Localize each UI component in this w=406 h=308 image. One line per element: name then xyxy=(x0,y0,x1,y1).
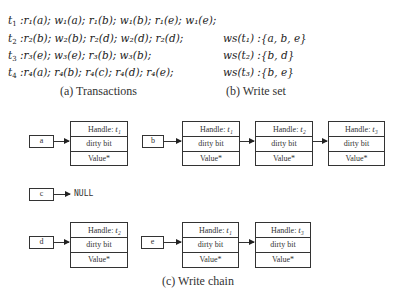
arrow-icon xyxy=(54,242,69,243)
chain-node-e-t1: Handle: t₁ dirty bit Value* xyxy=(182,222,239,268)
chain-node-b-t3: Handle: t₃ dirty bit Value* xyxy=(328,121,385,166)
chain-node-b-t2: Handle: t₂ dirty bit Value* xyxy=(255,121,313,166)
dirty-bit-row: dirty bit xyxy=(183,238,238,253)
transaction-ops: :r₃(e); w₃(e); r₃(b); w₃(b); xyxy=(17,49,152,61)
dirty-bit-row: dirty bit xyxy=(256,137,312,152)
transaction-ops: :r₄(a); r₄(b); r₄(c); r₄(d); r₄(e); xyxy=(17,66,174,78)
arrow-icon xyxy=(313,141,327,142)
chain-node-d-t2: Handle: t₂ dirty bit Value* xyxy=(70,222,128,268)
dirty-bit-row: dirty bit xyxy=(71,238,127,253)
transaction-line-t4: t4 :r₄(a); r₄(b); r₄(c); r₄(d); r₄(e); xyxy=(8,64,174,81)
handle-row: Handle: t₃ xyxy=(329,122,384,137)
key-a-box: a xyxy=(29,135,54,148)
handle-value: t₁ xyxy=(115,124,121,134)
chain-node-b-t1: Handle: t₁ dirty bit Value* xyxy=(182,121,240,166)
handle-label: Handle: xyxy=(88,125,115,134)
handle-label: Handle: xyxy=(88,226,115,235)
handle-row: Handle: t₃ xyxy=(256,223,310,238)
dirty-bit-row: dirty bit xyxy=(256,238,310,253)
handle-value: t₃ xyxy=(298,225,304,235)
handle-row: Handle: t₁ xyxy=(71,122,127,137)
value-row: Value* xyxy=(71,152,127,167)
chain-node-a-t1: Handle: t₁ dirty bit Value* xyxy=(70,121,128,166)
key-c-box: c xyxy=(29,188,54,201)
arrow-icon xyxy=(240,141,254,142)
handle-value: t₂ xyxy=(300,124,306,134)
handle-row: Handle: t₂ xyxy=(256,122,312,137)
transaction-line-t1: t1 :r₁(a); w₁(a); r₁(b); w₁(b); r₁(e); w… xyxy=(8,12,216,29)
transaction-ops: :r₁(a); w₁(a); r₁(b); w₁(b); r₁(e); w₁(e… xyxy=(17,14,217,26)
value-row: Value* xyxy=(183,152,239,167)
handle-label: Handle: xyxy=(273,125,300,134)
arrow-icon xyxy=(164,141,181,142)
handle-label: Handle: xyxy=(200,125,227,134)
write-set-line-t1: ws(t₁) :{a, b, e} xyxy=(223,30,307,47)
handle-value: t₃ xyxy=(372,124,378,134)
handle-label: Handle: xyxy=(345,125,372,134)
dirty-bit-row: dirty bit xyxy=(183,137,239,152)
write-set-line-t3: ws(t₃) :{b, e} xyxy=(223,64,294,81)
value-row: Value* xyxy=(256,152,312,167)
caption-write-chain: (c) Write chain xyxy=(162,274,234,289)
arrow-icon xyxy=(239,242,254,243)
handle-row: Handle: t₁ xyxy=(183,122,239,137)
transaction-line-t2: t2 :r₂(b); w₂(b); r₂(d); w₂(d); r₂(d); xyxy=(8,30,183,47)
key-d-box: d xyxy=(29,236,54,249)
key-e-box: e xyxy=(141,236,164,249)
value-row: Value* xyxy=(183,253,238,268)
transaction-line-t3: t3 :r₃(e); w₃(e); r₃(b); w₃(b); xyxy=(8,47,151,64)
arrow-icon xyxy=(54,141,69,142)
caption-write-set: (b) Write set xyxy=(226,84,286,99)
transaction-ops: :r₂(b); w₂(b); r₂(d); w₂(d); r₂(d); xyxy=(17,32,184,44)
value-row: Value* xyxy=(256,253,310,268)
handle-value: t₁ xyxy=(226,225,232,235)
handle-value: t₁ xyxy=(227,124,233,134)
dirty-bit-row: dirty bit xyxy=(71,137,127,152)
handle-row: Handle: t₂ xyxy=(71,223,127,238)
dirty-bit-row: dirty bit xyxy=(329,137,384,152)
key-b-box: b xyxy=(142,135,164,148)
null-label: NULL xyxy=(74,189,93,198)
handle-row: Handle: t₁ xyxy=(183,223,238,238)
handle-label: Handle: xyxy=(271,226,298,235)
handle-value: t₂ xyxy=(115,225,121,235)
handle-label: Handle: xyxy=(199,226,226,235)
chain-node-e-t3: Handle: t₃ dirty bit Value* xyxy=(255,222,311,268)
value-row: Value* xyxy=(329,152,384,167)
value-row: Value* xyxy=(71,253,127,268)
arrow-icon xyxy=(164,242,181,243)
arrow-icon xyxy=(54,194,70,195)
write-set-line-t2: ws(t₂) :{b, d} xyxy=(223,47,294,64)
caption-transactions: (a) Transactions xyxy=(60,84,137,99)
